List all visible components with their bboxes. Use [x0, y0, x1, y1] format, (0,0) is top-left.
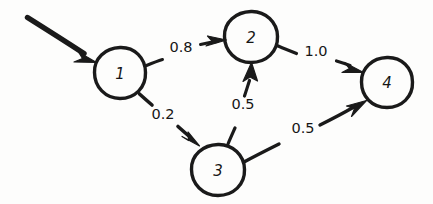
edge-2-to-4-arrow-head: [342, 63, 364, 73]
edge-3-to-2-shaft: [228, 128, 235, 144]
edge-1-to-2-shaft: [147, 60, 163, 66]
edge-label-1-to-2: 0.8: [169, 39, 192, 55]
diagram-canvas: 1 2 3 4 0.8 0.2 0.5 1.0 0.5: [0, 0, 433, 204]
node-2-label: 2: [246, 29, 256, 47]
node-4[interactable]: 4: [361, 57, 412, 107]
edge-3-to-2-shaft-b: [245, 81, 250, 97]
node-4-label: 4: [382, 74, 392, 92]
edge-1-to-3-shaft: [140, 94, 153, 105]
edge-label-2-to-4: 1.0: [304, 43, 327, 59]
edge-3-to-2-arrow-head: [243, 63, 258, 82]
node-1-label: 1: [115, 65, 125, 83]
diagram-svg: 1 2 3 4 0.8 0.2 0.5 1.0 0.5: [0, 0, 433, 204]
edge-2-to-4-shaft: [277, 46, 297, 54]
entry-arrow: [28, 18, 97, 63]
entry-arrow-shaft: [28, 18, 85, 54]
node-3[interactable]: 3: [191, 144, 244, 195]
edge-label-3-to-4: 0.5: [291, 120, 314, 136]
edge-label-1-to-3: 0.2: [151, 106, 174, 122]
edge-3-to-4-shaft-b: [320, 108, 353, 126]
node-2[interactable]: 2: [224, 11, 277, 62]
node-1[interactable]: 1: [94, 47, 145, 98]
edge-label-3-to-2: 0.5: [231, 96, 254, 112]
edge-3-to-4-shaft: [244, 144, 279, 162]
node-3-label: 3: [213, 162, 223, 180]
